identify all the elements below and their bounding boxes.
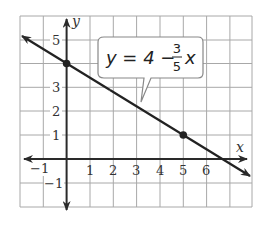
fraction-numerator: 3 xyxy=(173,41,181,56)
coordinate-plane: y x 5 3 2 1 −1 −1 1 2 3 4 5 6 y = 4 − 3 … xyxy=(0,0,266,228)
equation-variable: x xyxy=(184,47,196,68)
x-tick-3: 3 xyxy=(132,163,140,178)
x-tick-6: 6 xyxy=(202,163,210,178)
y-tick-5: 5 xyxy=(52,33,60,48)
y-tick-1: 1 xyxy=(52,128,60,143)
x-tick-1: 1 xyxy=(86,163,94,178)
x-tick-4: 4 xyxy=(156,163,164,178)
x-tick-5: 5 xyxy=(179,163,187,178)
point-5-1 xyxy=(180,131,188,139)
y-tick-neg1: −1 xyxy=(44,176,63,191)
x-tick-2: 2 xyxy=(109,163,117,178)
x-axis-label: x xyxy=(236,139,244,155)
y-tick-3: 3 xyxy=(52,80,60,95)
equation-text: y = 4 − xyxy=(105,47,175,68)
x-tick-neg1: −1 xyxy=(30,161,49,176)
fraction-denominator: 5 xyxy=(173,59,181,74)
y-axis-label: y xyxy=(71,13,81,29)
y-tick-2: 2 xyxy=(52,104,60,119)
point-0-4 xyxy=(63,60,71,68)
